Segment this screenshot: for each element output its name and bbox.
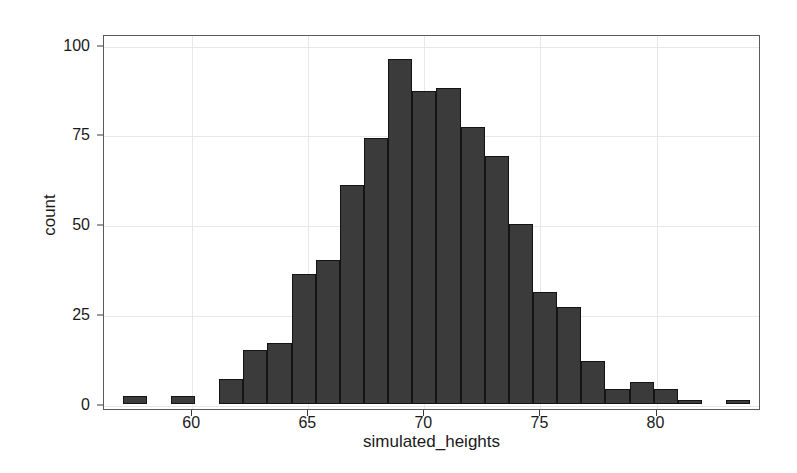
histogram-bar — [605, 389, 629, 403]
x-tick-mark — [423, 410, 424, 416]
histogram-figure: count 0255075100 6065707580 simulated_he… — [0, 0, 797, 473]
gridline-horizontal — [104, 406, 759, 407]
histogram-bar — [123, 396, 147, 403]
histogram-bar — [340, 185, 364, 404]
histogram-bar — [678, 400, 702, 404]
histogram-bar — [581, 361, 605, 404]
histogram-bar — [364, 138, 388, 404]
y-tick-label: 100 — [42, 37, 90, 55]
y-tick-label: 50 — [42, 216, 90, 234]
histogram-bar — [267, 343, 291, 404]
y-axis-tick-labels: 0255075100 — [38, 0, 90, 473]
x-tick-label: 80 — [647, 414, 665, 432]
x-tick-mark — [191, 410, 192, 416]
plot-panel — [103, 35, 760, 410]
x-tick-mark — [656, 410, 657, 416]
x-tick-label: 70 — [414, 414, 432, 432]
x-tick-label: 75 — [531, 414, 549, 432]
histogram-bar — [436, 88, 460, 404]
x-tick-mark — [307, 410, 308, 416]
histogram-bar — [412, 91, 436, 403]
histogram-bar — [243, 350, 267, 404]
histogram-bar — [219, 379, 243, 404]
x-tick-label: 65 — [298, 414, 316, 432]
histogram-bar — [461, 127, 485, 403]
histogram-bar — [726, 400, 750, 404]
histogram-bar — [630, 382, 654, 404]
x-axis-title: simulated_heights — [103, 432, 760, 452]
histogram-bar — [533, 292, 557, 403]
histogram-bar — [485, 156, 509, 404]
y-tick-label: 0 — [42, 396, 90, 414]
y-tick-label: 75 — [42, 126, 90, 144]
histogram-bar — [171, 396, 195, 403]
x-tick-label: 60 — [182, 414, 200, 432]
y-tick-label: 25 — [42, 306, 90, 324]
histogram-bar — [557, 307, 581, 404]
histogram-bar — [388, 59, 412, 403]
gridline-vertical — [192, 36, 193, 409]
histogram-bar — [509, 224, 533, 403]
x-tick-mark — [539, 410, 540, 416]
histogram-bar — [316, 260, 340, 404]
histogram-bar — [654, 389, 678, 403]
gridline-vertical — [657, 36, 658, 409]
histogram-bar — [292, 274, 316, 403]
gridline-horizontal — [104, 47, 759, 48]
